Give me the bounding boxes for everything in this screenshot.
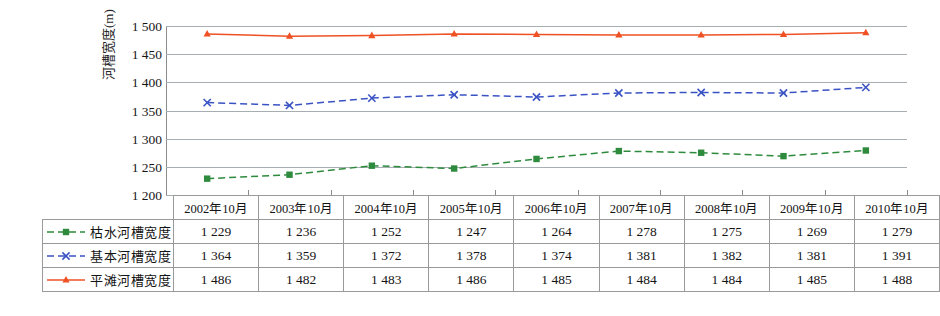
y-tick-label: 1 500: [132, 19, 162, 35]
series-line: [207, 150, 866, 178]
y-tick-label: 1 250: [132, 160, 162, 176]
table-cell: 1 378: [429, 244, 514, 268]
column-header-9: 2010年10月: [854, 196, 939, 220]
table-cell: 1 372: [344, 244, 429, 268]
table-cell: 1 275: [684, 220, 769, 244]
chart-figure: 河槽宽度(m) 1 2001 2501 3001 3501 4001 4501 …: [0, 0, 940, 316]
data-point-marker: [862, 84, 869, 91]
legend-item-2[interactable]: 基本河槽宽度: [43, 244, 174, 268]
column-header-7: 2008年10月: [684, 196, 769, 220]
column-header-2: 2003年10月: [259, 196, 344, 220]
column-header-5: 2006年10月: [514, 196, 599, 220]
y-axis-title: 河槽宽度(m): [98, 0, 116, 80]
column-header-6: 2007年10月: [599, 196, 684, 220]
table-row: 基本河槽宽度1 3641 3591 3721 3781 3741 3811 38…: [43, 244, 940, 268]
table-cell: 1 264: [514, 220, 599, 244]
table-cell: 1 382: [684, 244, 769, 268]
legend-item-1[interactable]: 枯水河槽宽度: [43, 220, 174, 244]
legend-item-3[interactable]: 平滩河槽宽度: [43, 268, 174, 292]
table-body: 枯水河槽宽度1 2291 2361 2521 2471 2641 2781 27…: [43, 220, 940, 292]
column-header-3: 2004年10月: [344, 196, 429, 220]
legend-swatch-triangle-icon: [45, 273, 87, 287]
table-cell: 1 485: [514, 268, 599, 292]
table-cell: 1 488: [854, 268, 939, 292]
column-header-1: 2002年10月: [174, 196, 259, 220]
table-cell: 1 484: [599, 268, 684, 292]
table-cell: 1 391: [854, 244, 939, 268]
data-point-marker: [698, 150, 704, 156]
plot-area: 1 2001 2501 3001 3501 4001 4501 500: [166, 26, 907, 195]
data-point-marker: [616, 148, 622, 154]
series-1: [204, 147, 869, 182]
table-cell: 1 486: [429, 268, 514, 292]
table-cell: 1 229: [174, 220, 259, 244]
table-cell: 1 482: [259, 268, 344, 292]
table-cell: 1 359: [259, 244, 344, 268]
table-cell: 1 486: [174, 268, 259, 292]
table-cell: 1 236: [259, 220, 344, 244]
data-point-marker: [533, 156, 539, 162]
column-header-8: 2009年10月: [769, 196, 854, 220]
data-point-marker: [862, 29, 869, 36]
legend-swatch-square-icon: [45, 225, 87, 239]
table-cell: 1 279: [854, 220, 939, 244]
table-cell: 1 247: [429, 220, 514, 244]
table-cell: 1 278: [599, 220, 684, 244]
y-tick-label: 1 300: [132, 132, 162, 148]
table-cell: 1 364: [174, 244, 259, 268]
table-cell: 1 485: [769, 268, 854, 292]
table-header: 2002年10月2003年10月2004年10月2005年10月2006年10月…: [43, 196, 940, 220]
table-cell: 1 483: [344, 268, 429, 292]
series-layer: [166, 26, 907, 195]
data-point-marker: [863, 147, 869, 153]
data-point-marker: [286, 172, 292, 178]
data-point-marker: [204, 175, 210, 181]
y-tick-label: 1 450: [132, 47, 162, 63]
table-cell: 1 252: [344, 220, 429, 244]
table-cell: 1 381: [769, 244, 854, 268]
series-3: [204, 29, 870, 39]
table-corner-cell: [43, 196, 174, 220]
table-cell: 1 374: [514, 244, 599, 268]
series-2: [204, 84, 870, 109]
table-row: 枯水河槽宽度1 2291 2361 2521 2471 2641 2781 27…: [43, 220, 940, 244]
table-row: 平滩河槽宽度1 4861 4821 4831 4861 4851 4841 48…: [43, 268, 940, 292]
column-header-4: 2005年10月: [429, 196, 514, 220]
table-header-row: 2002年10月2003年10月2004年10月2005年10月2006年10月…: [43, 196, 940, 220]
data-table: 2002年10月2003年10月2004年10月2005年10月2006年10月…: [42, 195, 940, 292]
y-tick-label: 1 350: [132, 104, 162, 120]
legend-label: 平滩河槽宽度: [90, 270, 171, 289]
table-cell: 1 484: [684, 268, 769, 292]
data-point-marker: [451, 165, 457, 171]
y-tick-label: 1 400: [132, 75, 162, 91]
legend-label: 基本河槽宽度: [90, 246, 171, 265]
data-point-marker: [369, 163, 375, 169]
data-point-marker: [204, 30, 211, 37]
table-cell: 1 381: [599, 244, 684, 268]
legend-label: 枯水河槽宽度: [90, 222, 171, 241]
table-cell: 1 269: [769, 220, 854, 244]
legend-swatch-x-icon: [45, 249, 87, 263]
data-point-marker: [780, 153, 786, 159]
